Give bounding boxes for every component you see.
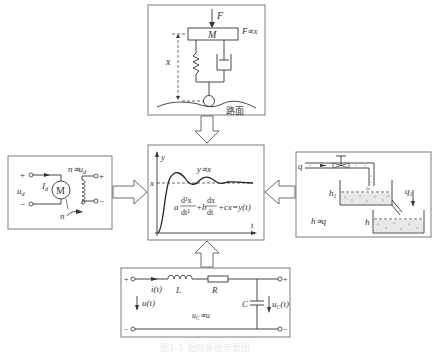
resistor-icon [208, 276, 228, 282]
inflow-label: q [298, 161, 303, 171]
rlc-output-plus: + [283, 275, 288, 284]
tank-2-liquid [374, 220, 423, 232]
arrow-top-to-center-icon [195, 116, 219, 143]
resistor-label: R [211, 285, 218, 295]
eq-dt: dt [207, 208, 214, 217]
response-panel-border [148, 145, 264, 240]
cap-voltage-label: uC(t) [272, 299, 289, 310]
eq-tail: +cx=y(t) [218, 202, 251, 212]
road-label: 路面 [226, 105, 244, 116]
wheel-icon [204, 96, 215, 107]
input-voltage-label: u(t) [142, 298, 155, 308]
arrow-bottom-to-center-icon [195, 241, 219, 267]
terminal-icon [131, 277, 135, 281]
capacitor-label: C [242, 299, 249, 309]
eq-dt2: dt² [181, 208, 190, 217]
force-relation-label: F∝x [241, 26, 258, 36]
tank-2-level-label: h [365, 217, 370, 227]
terminal-icon [278, 277, 282, 281]
terminal-icon [29, 202, 33, 206]
eq-coef-a: a [174, 202, 179, 212]
terminal-icon [131, 327, 135, 331]
steady-level-label: x [149, 178, 154, 188]
rlc-relation-label: uC∝u [192, 311, 210, 321]
rlc-input-minus: − [124, 325, 129, 334]
arrow-left-to-center-icon [113, 180, 147, 204]
terminal-icon [278, 327, 282, 331]
mechanical-system-panel: F M F∝x x 路面 [148, 5, 265, 116]
rlc-circuit-panel: + i(t) L R + C uC(t) u(t) uC∝u − [121, 268, 290, 337]
center-relation-label: y∝x [196, 164, 211, 174]
motor-system-panel: + Id ud M − + − n∝ud n [8, 156, 112, 229]
y-axis-label: y [160, 152, 165, 162]
response-panel: y t x y∝x a d²x dt² +b dx dt +cx=y(t) [148, 145, 264, 240]
tank-1-liquid [341, 193, 391, 204]
drip-icon: ≈ [366, 185, 370, 193]
motor-input-plus: + [20, 170, 25, 180]
tank-relation-label: h∝q [311, 216, 327, 226]
mass-label: M [207, 29, 217, 40]
eq-d2x: d²x [181, 196, 191, 205]
rlc-output-minus: − [283, 325, 288, 334]
rlc-input-plus: + [124, 275, 129, 284]
terminal-icon [94, 174, 98, 178]
motor-input-minus: − [20, 199, 25, 209]
generator-output-plus: + [99, 171, 104, 181]
current-label: i(t) [151, 284, 162, 294]
motor-label: M [56, 185, 65, 196]
figure-caption: 图1-1 相似系统示意图 [160, 342, 250, 353]
eq-coef-b: +b [196, 202, 207, 212]
tank-system-panel: q h1 q1 h h∝q ≈ [296, 152, 431, 237]
force-label: F [216, 10, 224, 21]
terminal-icon [94, 199, 98, 203]
arrow-right-to-center-icon [265, 180, 295, 204]
generator-output-minus: − [99, 196, 104, 206]
speed-label: n [60, 211, 65, 221]
inductor-label: L [175, 285, 181, 295]
eq-dx: dx [207, 196, 215, 205]
similar-systems-diagram: F M F∝x x 路面 y t x [0, 0, 441, 355]
terminal-icon [29, 173, 33, 177]
displacement-label: x [165, 56, 171, 67]
